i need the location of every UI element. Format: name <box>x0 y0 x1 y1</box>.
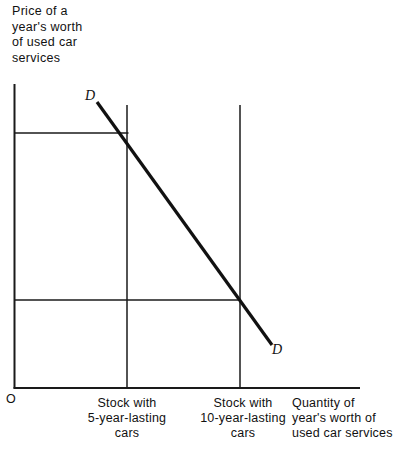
figure-panel: Price of a year's worth of used car serv… <box>0 0 419 455</box>
figure-caption <box>8 447 419 455</box>
supply-demand-chart <box>0 0 419 455</box>
demand-curve <box>97 102 272 345</box>
x-axis-label: Quantity of year's worth of used car ser… <box>292 396 419 441</box>
demand-curve-label-top: D <box>85 88 95 104</box>
y-axis-label: Price of a year's worth of used car serv… <box>12 4 152 66</box>
origin-label: O <box>6 392 16 406</box>
demand-curve-label-bottom: D <box>272 342 282 358</box>
